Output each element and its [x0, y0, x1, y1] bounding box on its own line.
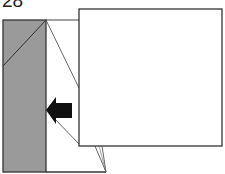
front-square	[79, 9, 222, 146]
origami-diagram	[0, 0, 225, 174]
fold-corner-triangle	[95, 146, 106, 172]
fold-line-upper	[46, 20, 79, 88]
arrow-left-icon	[46, 97, 72, 124]
fold-line-lower	[54, 118, 79, 144]
